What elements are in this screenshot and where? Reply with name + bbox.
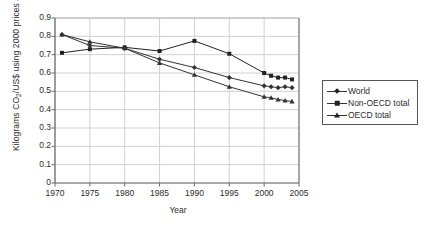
diamond-marker-icon [326,85,348,97]
y-tick-label: 0.1 [27,160,51,169]
y-axis-label: Kilograms CO2/US$ using 2000 prices and … [11,0,21,151]
y-tick-label: 0.8 [27,31,51,40]
y-tick-label: 0.9 [27,13,51,22]
square-marker-icon [326,97,348,109]
legend-item-non-oecd-total[interactable]: Non-OECD total [326,97,417,109]
legend-label: Non-OECD total [348,98,409,108]
y-tick-label: 0 [27,178,51,187]
data-point-diamond [192,65,197,70]
y-tick-label: 0.7 [27,50,51,59]
data-point-diamond [227,75,232,80]
data-point-square [276,76,280,80]
legend-label: World [348,86,370,96]
chart-container: Kilograms CO2/US$ using 2000 prices and … [0,0,428,230]
data-point-square [227,52,231,56]
data-point-diamond [282,84,287,89]
y-tick-label: 0.2 [27,141,51,150]
data-point-square [269,74,273,78]
data-point-diamond [275,85,280,90]
data-point-square [290,77,294,81]
triangle-marker-icon [326,109,348,121]
data-point-diamond [289,85,294,90]
data-point-square [60,51,64,55]
data-point-square [262,71,266,75]
x-tick-label: 2005 [279,188,319,198]
y-tick-label: 0.3 [27,123,51,132]
data-point-square [283,76,287,80]
y-axis-label-pre: Kilograms CO [11,97,21,151]
data-point-square [192,39,196,43]
data-point-square [158,49,162,53]
legend-item-oecd-total[interactable]: OECD total [326,109,417,121]
chart-legend: World Non-OECD total OECD total [322,80,418,125]
y-axis-label-sub: 2 [15,93,22,97]
y-tick-label: 0.5 [27,86,51,95]
data-point-diamond [262,83,267,88]
series-line-non-oecd-total [62,41,292,80]
y-axis-label-post: /US$ using 2000 prices and PPP [11,0,21,93]
series-line-world [62,35,292,88]
legend-label: OECD total [348,110,391,120]
data-point-square [88,47,92,51]
x-axis-label: Year [0,205,356,215]
data-point-diamond [269,84,274,89]
y-tick-label: 0.6 [27,68,51,77]
y-tick-label: 0.4 [27,105,51,114]
legend-item-world[interactable]: World [326,85,417,97]
